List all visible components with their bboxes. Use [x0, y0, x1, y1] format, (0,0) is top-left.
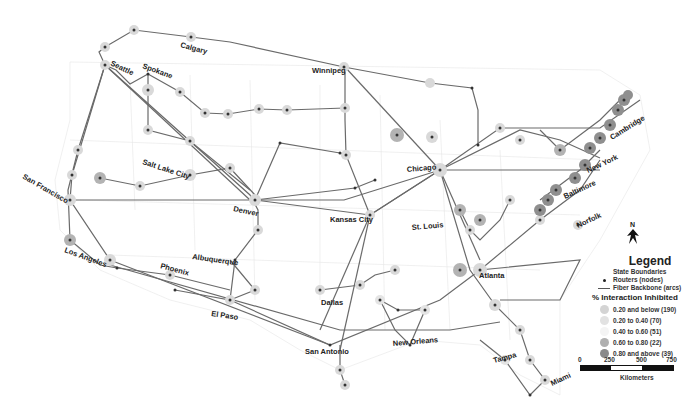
- scale-unit: Kilometers: [620, 374, 654, 381]
- legend-item-fiber-backbone: Fiber Backbone (arcs): [598, 284, 696, 292]
- scale-tick-250: 250: [604, 356, 615, 363]
- city-label-phoenix: Phoenix: [159, 261, 190, 277]
- interaction-halos: [64, 25, 633, 390]
- state-boundaries: [55, 62, 650, 395]
- router-dot-icon: [598, 279, 610, 282]
- city-label-dallas: Dallas: [321, 298, 343, 307]
- city-label-los-angeles: Los Angeles: [63, 245, 108, 269]
- north-arrow-icon: [627, 229, 639, 244]
- scale-bar-segments: [580, 365, 674, 371]
- city-label-calgary: Calgary: [179, 40, 209, 56]
- network-map: CalgarySeattleSpokaneWinnipegSalt Lake C…: [0, 0, 696, 416]
- scale-tick-0: 0: [578, 356, 582, 363]
- north-label: N: [630, 221, 635, 228]
- legend-class-3: 0.40 to 0.60 (51): [598, 326, 696, 337]
- city-label-san-francisco: San Francisco: [21, 172, 70, 206]
- city-label-new-york: New York: [585, 152, 620, 175]
- class-1-swatch-icon: [600, 305, 609, 314]
- city-label-el-paso: El Paso: [211, 309, 239, 322]
- city-label-miami: Miami: [549, 371, 572, 388]
- class-2-swatch-icon: [600, 316, 609, 325]
- city-label-albuquerque: Albuquerque: [192, 252, 239, 267]
- city-label-spokane: Spokane: [141, 61, 173, 80]
- legend-class-2: 0.20 to 0.40 (70): [598, 315, 696, 326]
- city-label-new-orleans: New Orleans: [392, 335, 438, 348]
- city-label-norfolk: Norfolk: [575, 210, 603, 230]
- class-3-swatch-icon: [600, 327, 609, 336]
- city-label-san-antonio: San Antonio: [305, 347, 349, 356]
- scale-bar: 0 250 500 750 Kilometers: [578, 356, 688, 386]
- city-label-atlanta: Atlanta: [479, 271, 505, 280]
- north-arrow: N: [623, 220, 643, 246]
- city-label-seattle: Seattle: [109, 59, 135, 78]
- legend-item-routers: Routers (nodes): [598, 276, 696, 284]
- legend-title: Legend: [604, 254, 696, 268]
- scale-tick-500: 500: [636, 356, 647, 363]
- fiber-line-icon: [598, 288, 610, 289]
- legend-class-1: 0.20 and below (190): [598, 304, 696, 315]
- legend: Legend State Boundaries Routers (nodes) …: [598, 254, 696, 359]
- city-label-kansas-city: Kansas City: [330, 215, 374, 224]
- city-label-salt-lake-city: Salt Lake City: [141, 157, 191, 181]
- legend-subtitle: % Interaction Inhibited: [592, 293, 696, 302]
- legend-item-state-boundaries: State Boundaries: [598, 268, 696, 276]
- fiber-backbone-arcs: [68, 30, 640, 395]
- legend-class-4: 0.60 to 0.80 (22): [598, 337, 696, 348]
- city-label-st-louis: St. Louis: [411, 220, 443, 232]
- city-label-winnipeg: Winnipeg: [312, 66, 346, 75]
- class-4-swatch-icon: [600, 338, 609, 347]
- scale-tick-750: 750: [666, 356, 677, 363]
